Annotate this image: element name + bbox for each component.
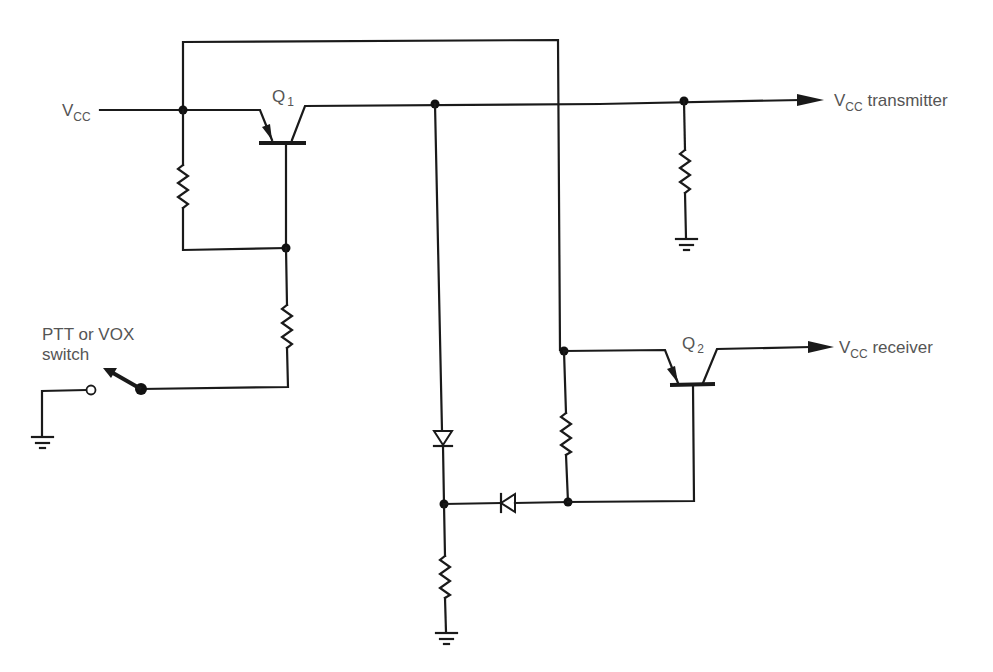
q1-transistor: [255, 104, 600, 248]
diode-d2: [444, 494, 568, 512]
ground-icon: [676, 239, 697, 250]
vcc-receiver-label: VCC receiver: [839, 338, 933, 361]
diode-d1: [434, 104, 452, 504]
switch-label-line2: switch: [42, 345, 89, 364]
resistor-r3: [680, 101, 690, 238]
switch-label-line1: PTT or VOX: [42, 325, 134, 344]
transmitter-output-wire: [600, 94, 824, 106]
emitter-arrow-icon: [667, 366, 678, 383]
q2-transistor: [564, 341, 834, 502]
vcc-transmitter-label: VCC transmitter: [834, 91, 948, 114]
output-arrow-icon: [797, 94, 824, 106]
output-arrow-icon: [808, 341, 834, 353]
resistor-r5: [440, 504, 450, 632]
resistor-r2: [141, 248, 292, 389]
ground-icon: [32, 437, 53, 448]
emitter-arrow-icon: [262, 124, 272, 140]
top-feedback-wire: [183, 40, 560, 350]
vcc-input-label: VCC: [62, 101, 91, 124]
q2-label: Q2: [682, 334, 704, 356]
resistor-r4: [561, 351, 571, 502]
q1-label: Q1: [272, 87, 294, 109]
ptt-vox-switch: [42, 368, 147, 436]
ground-icon: [436, 633, 457, 644]
circuit-diagram: VCC Q1 VCC transmitter Q2 VCC receiver P…: [0, 0, 993, 672]
